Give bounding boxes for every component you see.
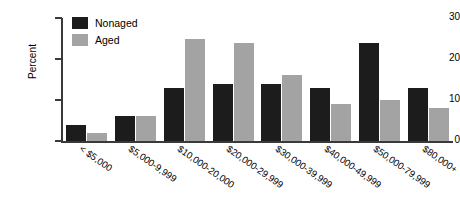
bar-aged-0 (87, 133, 107, 141)
bar-nonaged-7 (408, 88, 428, 141)
legend-swatch-nonaged (72, 17, 88, 29)
x-tick-label: $5,000-9,999 (127, 143, 133, 152)
bar-aged-2 (185, 39, 205, 142)
bar-chart: Percent 0102030 Nonaged Aged < $5,000$5,… (0, 0, 460, 215)
bar-aged-4 (282, 75, 302, 141)
x-tick-label: $80,000+ (420, 143, 426, 152)
bar-aged-6 (380, 100, 400, 141)
bar-aged-1 (136, 116, 156, 141)
legend-item-nonaged: Nonaged (72, 15, 138, 30)
legend-label-nonaged: Nonaged (95, 17, 138, 29)
bar-nonaged-1 (115, 116, 135, 141)
bar-aged-3 (234, 43, 254, 141)
bar-aged-7 (429, 108, 449, 141)
bar-nonaged-2 (164, 88, 184, 141)
bar-nonaged-0 (66, 125, 86, 141)
bar-nonaged-5 (310, 88, 330, 141)
x-tick-label: $40,000-49,999 (323, 143, 329, 152)
x-tick-label: $20,000-29,999 (225, 143, 231, 152)
bar-nonaged-3 (213, 84, 233, 141)
chart-legend: Nonaged Aged (72, 15, 138, 49)
x-tick-label: $50,000-79,999 (371, 143, 377, 152)
legend-label-aged: Aged (95, 34, 120, 46)
bar-nonaged-4 (261, 84, 281, 141)
bar-aged-5 (331, 104, 351, 141)
x-tick-label: $30,000-39,999 (274, 143, 280, 152)
legend-item-aged: Aged (72, 32, 138, 47)
x-axis-labels: < $5,000$5,000-9,999$10,000-20,000$20,00… (0, 143, 460, 215)
bar-nonaged-6 (359, 43, 379, 141)
x-tick-label: $10,000-20,000 (176, 143, 182, 152)
x-tick-label: < $5,000 (78, 143, 84, 152)
legend-swatch-aged (72, 34, 88, 46)
y-axis-title: Percent (27, 32, 38, 92)
